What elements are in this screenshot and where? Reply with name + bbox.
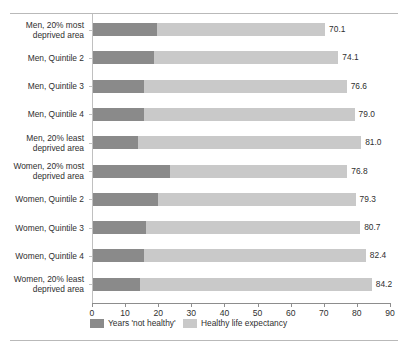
x-axis-tick bbox=[224, 304, 225, 307]
bar-segment-not-healthy bbox=[93, 249, 144, 262]
bar-segment-healthy-life-expectancy bbox=[144, 108, 355, 121]
bar-segment-not-healthy bbox=[93, 221, 146, 234]
bottom-divider-rule bbox=[10, 340, 398, 341]
y-axis-category-label: Women, 20% most deprived area bbox=[0, 161, 84, 181]
y-axis-category-label: Men, Quintile 4 bbox=[0, 109, 84, 119]
legend-color-swatch bbox=[90, 319, 104, 328]
legend-label: Healthy life expectancy bbox=[201, 318, 287, 329]
bar-segment-healthy-life-expectancy bbox=[144, 249, 366, 262]
x-axis-tick bbox=[258, 304, 259, 307]
bar-value-label: 80.7 bbox=[364, 221, 380, 234]
y-axis-category-label: Women, Quintile 2 bbox=[0, 194, 84, 204]
x-axis-tick bbox=[324, 304, 325, 307]
bar-segment-healthy-life-expectancy bbox=[144, 80, 347, 93]
x-axis-tick-label: 60 bbox=[281, 308, 301, 318]
x-axis-tick-label: 90 bbox=[380, 308, 400, 318]
x-axis-tick bbox=[158, 304, 159, 307]
legend-color-swatch bbox=[183, 319, 197, 328]
x-axis-line bbox=[92, 303, 391, 304]
bar-segment-healthy-life-expectancy bbox=[170, 165, 347, 178]
legend-label: Years 'not healthy' bbox=[108, 318, 176, 329]
bar-segment-not-healthy bbox=[93, 23, 157, 36]
y-axis-category-label: Women, Quintile 3 bbox=[0, 223, 84, 233]
bar-value-label: 76.6 bbox=[351, 80, 367, 93]
bar-segment-healthy-life-expectancy bbox=[140, 278, 372, 291]
x-axis-tick bbox=[191, 304, 192, 307]
y-axis-category-label: Men, 20% most deprived area bbox=[0, 20, 84, 40]
bar-value-label: 79.0 bbox=[359, 108, 375, 121]
bar-segment-not-healthy bbox=[93, 136, 138, 149]
bar-segment-not-healthy bbox=[93, 193, 158, 206]
x-axis-tick bbox=[390, 304, 391, 307]
y-axis-category-labels: Men, 20% most deprived areaMen, Quintile… bbox=[0, 14, 88, 303]
bar-segment-not-healthy bbox=[93, 165, 170, 178]
x-axis-tick-label: 30 bbox=[181, 308, 201, 318]
bar-segment-healthy-life-expectancy bbox=[138, 136, 361, 149]
bar-value-label: 81.0 bbox=[365, 136, 381, 149]
y-axis-category-label: Men, Quintile 3 bbox=[0, 81, 84, 91]
bar-segment-healthy-life-expectancy bbox=[146, 221, 360, 234]
bar-segment-not-healthy bbox=[93, 80, 144, 93]
y-axis-category-label: Women, 20% least deprived area bbox=[0, 274, 84, 294]
bar-segment-healthy-life-expectancy bbox=[157, 23, 325, 36]
bar-value-label: 74.1 bbox=[342, 51, 358, 64]
chart-figure: Men, 20% most deprived areaMen, Quintile… bbox=[0, 0, 402, 348]
x-axis-tick-label: 0 bbox=[82, 308, 102, 318]
y-axis-category-label: Men, 20% least deprived area bbox=[0, 133, 84, 153]
bar-segment-healthy-life-expectancy bbox=[154, 51, 338, 64]
x-axis-tick-label: 80 bbox=[347, 308, 367, 318]
y-axis-category-label: Men, Quintile 2 bbox=[0, 53, 84, 63]
x-axis-tick bbox=[125, 304, 126, 307]
x-axis-tick-label: 40 bbox=[214, 308, 234, 318]
x-axis-tick bbox=[291, 304, 292, 307]
x-axis-tick bbox=[357, 304, 358, 307]
x-axis-tick-label: 70 bbox=[314, 308, 334, 318]
bar-segment-not-healthy bbox=[93, 51, 154, 64]
x-axis-tick bbox=[92, 304, 93, 307]
y-axis-category-label: Women, Quintile 4 bbox=[0, 251, 84, 261]
bar-segment-not-healthy bbox=[93, 108, 144, 121]
x-axis-tick-label: 20 bbox=[148, 308, 168, 318]
bar-value-label: 70.1 bbox=[329, 23, 345, 36]
x-axis-tick-label: 10 bbox=[115, 308, 135, 318]
bar-value-label: 79.3 bbox=[360, 193, 376, 206]
bar-segment-healthy-life-expectancy bbox=[158, 193, 356, 206]
plot-area: 70.174.176.679.081.076.879.380.782.484.2 bbox=[92, 14, 390, 303]
bar-value-label: 76.8 bbox=[351, 165, 367, 178]
x-axis-tick-label: 50 bbox=[248, 308, 268, 318]
bar-segment-not-healthy bbox=[93, 278, 140, 291]
bar-value-label: 82.4 bbox=[370, 249, 386, 262]
bar-value-label: 84.2 bbox=[376, 278, 392, 291]
